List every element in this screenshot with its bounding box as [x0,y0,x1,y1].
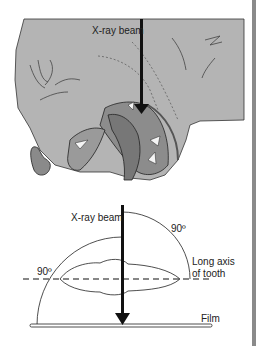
dental-radiography-diagram [0,0,256,346]
film-label: Film [201,313,220,324]
long-axis-label-line2: of tooth [192,268,225,279]
bottom-beam-label: X-ray beam [71,212,123,223]
top-beam-label: X-ray beam [92,25,144,36]
angle-top-label: 90º [171,223,186,234]
dog-head-illustration [15,19,244,180]
angle-left-label: 90º [37,266,52,277]
long-axis-label-line1: Long axis [192,256,235,267]
